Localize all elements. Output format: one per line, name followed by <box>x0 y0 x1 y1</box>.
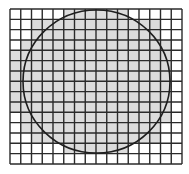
shaded-cell <box>42 50 53 60</box>
shaded-cell <box>118 81 129 91</box>
shaded-cell <box>75 19 86 29</box>
shaded-cell <box>64 123 75 133</box>
shaded-cell <box>10 81 21 91</box>
shaded-cell <box>118 19 129 29</box>
shaded-cell <box>150 133 161 143</box>
shaded-cell <box>150 50 161 60</box>
shaded-cell <box>85 112 96 122</box>
shaded-cell <box>107 19 118 29</box>
shaded-cell <box>64 50 75 60</box>
shaded-cell <box>85 123 96 133</box>
shaded-cell <box>96 50 107 60</box>
shaded-cell <box>32 102 43 112</box>
shaded-cell <box>150 102 161 112</box>
shaded-cell <box>42 81 53 91</box>
shaded-cell <box>85 30 96 40</box>
shaded-cell <box>107 102 118 112</box>
shaded-cell <box>150 40 161 50</box>
shaded-cell <box>64 92 75 102</box>
shaded-cell <box>128 102 139 112</box>
shaded-cell <box>75 123 86 133</box>
shaded-cell <box>118 92 129 102</box>
shaded-cell <box>32 133 43 143</box>
shaded-cell <box>53 81 64 91</box>
shaded-cell <box>42 71 53 81</box>
shaded-cell <box>128 40 139 50</box>
shaded-cell <box>107 123 118 133</box>
shaded-cell <box>128 19 139 29</box>
shaded-cell <box>10 61 21 71</box>
shaded-cell <box>85 92 96 102</box>
shaded-cell <box>53 71 64 81</box>
shaded-cell <box>75 50 86 60</box>
shaded-cell <box>64 102 75 112</box>
shaded-cell <box>64 30 75 40</box>
shaded-cell <box>85 71 96 81</box>
shaded-cell <box>128 61 139 71</box>
shaded-cell <box>96 81 107 91</box>
shaded-cell <box>64 19 75 29</box>
shaded-cell <box>107 71 118 81</box>
shaded-cell <box>150 112 161 122</box>
shaded-cell <box>32 61 43 71</box>
shaded-cell <box>139 102 150 112</box>
shaded-cell <box>64 40 75 50</box>
shaded-cell <box>53 102 64 112</box>
shaded-cell <box>10 71 21 81</box>
shaded-cell <box>128 92 139 102</box>
shaded-cell <box>42 61 53 71</box>
shaded-cell <box>10 102 21 112</box>
shaded-cell <box>118 40 129 50</box>
shaded-cell <box>118 50 129 60</box>
shaded-cell <box>96 123 107 133</box>
shaded-cell <box>128 123 139 133</box>
shaded-cell <box>75 40 86 50</box>
shaded-cell <box>139 81 150 91</box>
shaded-cell <box>32 71 43 81</box>
shaded-cell <box>53 30 64 40</box>
shaded-cell <box>118 71 129 81</box>
shaded-cell <box>118 112 129 122</box>
shaded-cell <box>107 30 118 40</box>
shaded-cell <box>75 81 86 91</box>
shaded-cell <box>107 40 118 50</box>
shaded-cell <box>10 92 21 102</box>
shaded-cell <box>96 61 107 71</box>
shaded-cell <box>75 112 86 122</box>
shaded-cell <box>96 71 107 81</box>
shaded-cell <box>107 133 118 143</box>
shaded-cell <box>107 61 118 71</box>
shaded-cell <box>75 30 86 40</box>
shaded-cell <box>96 133 107 143</box>
shaded-cell <box>96 92 107 102</box>
shaded-cell <box>96 19 107 29</box>
shaded-cell <box>64 133 75 143</box>
shaded-cell <box>64 61 75 71</box>
shaded-cell <box>64 71 75 81</box>
shaded-cell <box>150 92 161 102</box>
shaded-cell <box>21 123 32 133</box>
shaded-cell <box>139 40 150 50</box>
shaded-cell <box>139 50 150 60</box>
shaded-cell <box>96 112 107 122</box>
shaded-cell <box>139 92 150 102</box>
shaded-cell <box>53 133 64 143</box>
shaded-cell <box>85 40 96 50</box>
shaded-cell <box>75 61 86 71</box>
circle-on-grid-figure <box>0 0 189 174</box>
shaded-cell <box>53 123 64 133</box>
shaded-cell <box>85 102 96 112</box>
shaded-cell <box>10 50 21 60</box>
shaded-cell <box>107 50 118 60</box>
shaded-cell <box>32 92 43 102</box>
shaded-cell <box>96 102 107 112</box>
shaded-cell <box>118 123 129 133</box>
shaded-cell <box>139 112 150 122</box>
shaded-cell <box>107 92 118 102</box>
shaded-cell <box>128 50 139 60</box>
shaded-cell <box>96 40 107 50</box>
shaded-cell <box>128 81 139 91</box>
shaded-cell <box>85 61 96 71</box>
shaded-cell <box>75 133 86 143</box>
shaded-cell <box>85 81 96 91</box>
